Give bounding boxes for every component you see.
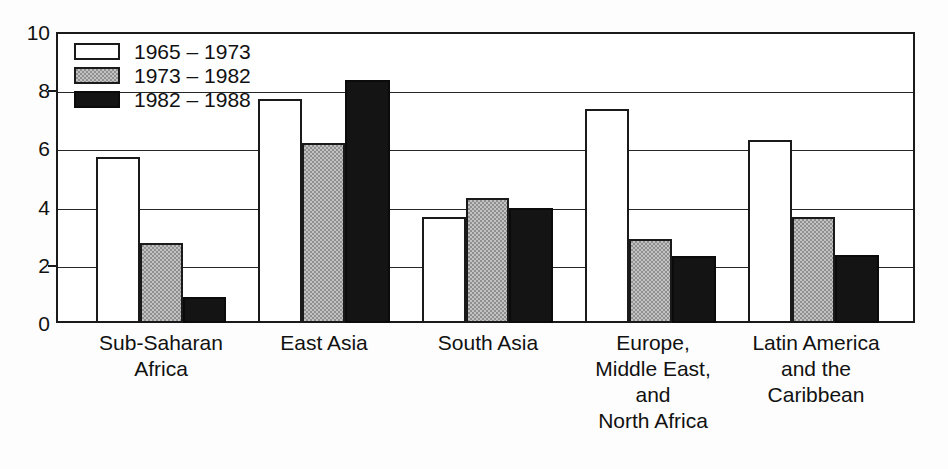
y-tick-label-10: 10	[6, 22, 50, 43]
category-label-line: Caribbean	[733, 382, 899, 408]
category-label-line: South Asia	[408, 330, 568, 356]
gridline-2	[58, 267, 913, 268]
legend-item-1973-1982: 1973 – 1982	[74, 64, 251, 87]
white-swatch-icon	[74, 43, 120, 60]
legend-label-1982-1988: 1982 – 1988	[134, 89, 251, 110]
category-label-europe-middle-east-north-africa: Europe, Middle East, and North Africa	[570, 330, 736, 434]
category-label-line: Middle East,	[570, 356, 736, 382]
y-tick-label-6: 6	[6, 138, 50, 159]
y-tick-label-8: 8	[6, 80, 50, 101]
category-label-line: North Africa	[570, 408, 736, 434]
bar-chart: 10 8 6 4 2 0	[0, 0, 948, 469]
y-tick-mark-8	[48, 90, 56, 92]
black-swatch-icon	[74, 91, 120, 108]
category-label-line: and the	[733, 356, 899, 382]
legend-label-1965-1973: 1965 – 1973	[134, 41, 251, 62]
category-label-east-asia: East Asia	[244, 330, 404, 356]
category-label-line: Latin America	[733, 330, 899, 356]
x-axis-category-labels: Sub-Saharan Africa East Asia South Asia …	[56, 330, 915, 465]
y-tick-label-4: 4	[6, 196, 50, 217]
category-label-line: and	[570, 382, 736, 408]
gridline-6	[58, 150, 913, 151]
category-label-line: Sub-Saharan	[81, 330, 241, 356]
legend: 1965 – 1973 1973 – 1982 1982 – 1988	[74, 40, 251, 112]
legend-item-1982-1988: 1982 – 1988	[74, 88, 251, 111]
category-label-south-asia: South Asia	[408, 330, 568, 356]
gridline-4	[58, 209, 913, 210]
gray-swatch-icon	[74, 67, 120, 84]
legend-label-1973-1982: 1973 – 1982	[134, 65, 251, 86]
category-label-line: Africa	[81, 356, 241, 382]
y-tick-mark-2	[48, 265, 56, 267]
y-axis: 10 8 6 4 2 0	[0, 32, 50, 323]
category-label-line: Europe,	[570, 330, 736, 356]
y-tick-label-0: 0	[6, 313, 50, 334]
category-label-latin-america-caribbean: Latin America and the Caribbean	[733, 330, 899, 408]
category-label-line: East Asia	[244, 330, 404, 356]
category-label-sub-saharan-africa: Sub-Saharan Africa	[81, 330, 241, 382]
legend-item-1965-1973: 1965 – 1973	[74, 40, 251, 63]
y-tick-label-2: 2	[6, 254, 50, 275]
